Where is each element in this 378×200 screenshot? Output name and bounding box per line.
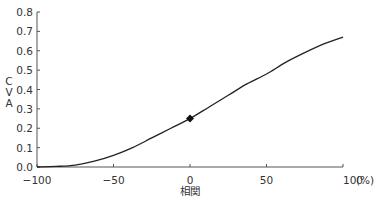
y-tick-label: 0.7 bbox=[16, 25, 33, 37]
x-tick-label: −50 bbox=[102, 174, 124, 186]
diamond-marker-icon bbox=[186, 115, 194, 123]
y-axis-label: CVA bbox=[5, 75, 13, 109]
y-tick-label: 0.4 bbox=[16, 84, 33, 96]
x-tick-label: −100 bbox=[23, 174, 52, 186]
y-axis: 0.00.10.20.30.40.50.60.70.8 bbox=[16, 6, 40, 173]
y-tick-label: 0.0 bbox=[16, 161, 33, 173]
cva-correlation-chart: 0.00.10.20.30.40.50.60.70.8 −100−5005010… bbox=[0, 0, 378, 200]
x-axis: −100−50050100 bbox=[23, 164, 363, 186]
y-tick-label: 0.5 bbox=[16, 64, 33, 76]
y-tick-label: 0.3 bbox=[16, 103, 33, 115]
x-axis-unit: (%) bbox=[356, 174, 374, 186]
x-tick-label: 50 bbox=[260, 174, 273, 186]
y-tick-label: 0.1 bbox=[16, 142, 33, 154]
cva-curve bbox=[37, 37, 343, 167]
y-tick-label: 0.2 bbox=[16, 122, 33, 134]
x-axis-label: 相関 bbox=[180, 185, 200, 197]
y-tick-label: 0.8 bbox=[16, 6, 33, 18]
y-tick-label: 0.6 bbox=[16, 45, 33, 57]
